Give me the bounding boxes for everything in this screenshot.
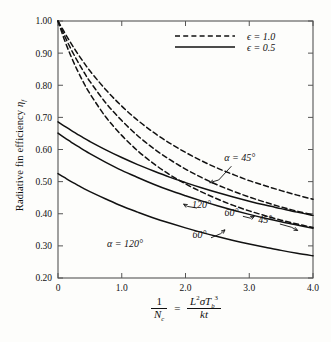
x-axis-lhs-numerator: 1 [151, 296, 167, 308]
annotation-3: 45° [258, 214, 272, 225]
y-tick-label: 0.90 [35, 49, 52, 59]
y-tick-label: 0.80 [35, 81, 52, 91]
annotation-0: α = 45° [224, 152, 255, 163]
plot-frame [58, 21, 313, 278]
x-axis-rhs-denominator: kt [187, 308, 221, 321]
x-axis-rhs-fraction: L2σTb3 kt [187, 296, 221, 320]
y-axis-title: Radiative fin efficiency ηf [14, 41, 25, 271]
y-tick-label: 0.50 [35, 177, 52, 187]
x-tick-label: 4.0 [307, 283, 319, 293]
x-axis-title: 1 Nc = L2σTb3 kt [58, 296, 314, 320]
legend-label-0: ϵ = 1.0 [247, 31, 275, 42]
y-tick-label: 0.20 [35, 273, 52, 283]
series-line-4 [58, 133, 313, 228]
x-tick-label: 0 [56, 283, 61, 293]
x-tick-label: 2.0 [180, 283, 192, 293]
y-tick-label: 0.60 [35, 145, 52, 155]
eta-symbol: η [14, 102, 25, 107]
equals-sign: = [170, 302, 184, 314]
chart-canvas: 01.02.03.04.00.200.300.400.500.600.700.8… [0, 0, 331, 342]
x-tick-label: 1.0 [116, 283, 128, 293]
annotation-5: α = 120° [107, 238, 143, 249]
x-tick-label: 3.0 [243, 283, 255, 293]
annotation-4: 60° [193, 229, 207, 240]
y-tick-label: 0.70 [35, 113, 52, 123]
eta-subscript: f [20, 100, 27, 102]
y-tick-label: 1.00 [35, 16, 52, 26]
x-axis-rhs-numerator: L2σTb3 [187, 296, 221, 308]
annotation-2: 60° [224, 207, 238, 218]
x-axis-lhs-fraction: 1 Nc [151, 296, 167, 320]
legend-label-1: ϵ = 0.5 [247, 42, 275, 53]
series-line-5 [58, 174, 313, 256]
annotation-1: 120° [192, 199, 211, 210]
figure-container: 01.02.03.04.00.200.300.400.500.600.700.8… [0, 0, 331, 342]
x-axis-lhs-denominator: Nc [151, 308, 167, 321]
y-tick-label: 0.40 [35, 209, 52, 219]
y-tick-label: 0.30 [35, 241, 52, 251]
y-axis-title-text: Radiative fin efficiency [14, 107, 25, 211]
